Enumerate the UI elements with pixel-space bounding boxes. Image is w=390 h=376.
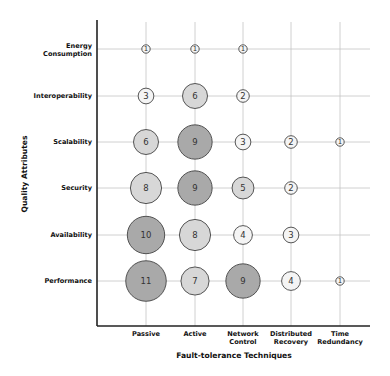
bubbles: 11136269321895210843117941 [126,45,344,301]
y-tick-label: Availability [50,231,92,239]
bubble-value: 2 [288,183,293,193]
x-tick-label: Recovery [274,338,309,346]
x-tick-label: Active [183,330,207,338]
bubble-value: 6 [192,91,197,101]
bubble: 3 [138,88,154,104]
bubble-value: 1 [338,277,342,285]
bubble: 1 [142,45,150,54]
bubble: 10 [127,216,164,253]
bubble-value: 4 [288,276,293,286]
bubble: 2 [285,182,298,195]
y-tick-label: Security [61,184,92,192]
y-tick-label: Consumption [43,50,92,58]
bubble-value: 10 [141,230,152,240]
bubble-value: 1 [193,45,197,53]
bubble: 11 [126,261,167,302]
bubble-value: 2 [288,137,293,147]
bubble-value: 3 [143,91,148,101]
x-tick-label: Passive [132,330,161,338]
y-tick-label: Performance [44,277,92,285]
bubble-value: 6 [143,137,148,147]
bubble-value: 9 [192,183,197,193]
y-tick-label: Energy [66,42,93,50]
bubble-value: 2 [240,91,245,101]
bubble: 6 [134,130,159,155]
bubble-chart: 11136269321895210843117941 EnergyConsump… [0,0,390,376]
bubble: 2 [237,90,250,103]
bubble: 3 [235,134,251,150]
bubble-value: 8 [192,230,197,240]
y-tick-label: Scalability [53,138,92,146]
bubble-value: 1 [241,45,245,53]
bubble-value: 8 [143,183,148,193]
x-axis-title: Fault-tolerance Techniques [176,351,292,360]
bubble: 9 [178,125,212,159]
bubble: 1 [239,45,247,54]
bubble: 7 [181,267,209,295]
bubble: 9 [226,264,260,298]
y-axis-title: Quality Attributes [20,135,29,213]
bubble-value: 1 [144,45,148,53]
bubble-value: 3 [288,230,293,240]
bubble: 4 [234,226,253,245]
x-tick-labels: PassiveActiveNetworkControlDistributedRe… [132,330,364,346]
bubble-value: 11 [141,276,152,286]
bubble: 1 [191,45,199,54]
bubble-value: 5 [240,183,245,193]
bubble: 4 [282,272,301,291]
bubble: 3 [283,227,299,243]
bubble-value: 7 [192,276,197,286]
bubble-value: 4 [240,230,245,240]
bubble: 2 [285,136,298,149]
bubble: 8 [179,219,210,250]
bubble: 1 [336,138,344,147]
x-tick-label: Control [229,338,256,346]
bubble-value: 3 [240,137,245,147]
y-tick-label: Interoperability [34,92,93,100]
bubble-value: 9 [240,276,245,286]
x-tick-label: Redundancy [317,338,363,346]
bubble: 8 [130,172,161,203]
bubble-value: 9 [192,137,197,147]
bubble: 9 [178,171,212,205]
bubble-value: 1 [338,138,342,146]
bubble: 5 [232,177,254,199]
bubble: 6 [183,84,208,109]
bubble: 1 [336,277,344,286]
y-tick-labels: EnergyConsumptionInteroperabilityScalabi… [34,42,93,286]
